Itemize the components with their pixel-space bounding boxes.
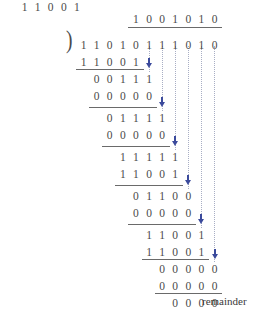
- partial-1-digit: 0: [103, 72, 116, 86]
- rule-4: [115, 185, 183, 186]
- partial-5-digit: 1: [143, 228, 156, 242]
- subtrahend-1-digit: 1: [90, 55, 103, 69]
- subtrahend-5-digit: 0: [169, 206, 182, 220]
- remainder-label: remainder: [202, 295, 247, 308]
- rule-5: [128, 224, 196, 225]
- dividend-digit: 1: [169, 38, 182, 52]
- bringdown-arrow-6: [212, 254, 218, 259]
- bringdown-arrow-4: [185, 180, 191, 185]
- subtrahend-3-digit: 0: [103, 128, 116, 142]
- quotient-digit: 0: [156, 12, 169, 26]
- remainder-digit: 0: [182, 296, 195, 310]
- subtrahend-7-digit: 0: [156, 279, 169, 293]
- guide-col-7: [175, 46, 176, 150]
- subtrahend-5-digit: 0: [129, 206, 142, 220]
- dividend-digit: 1: [143, 38, 156, 52]
- subtrahend-4-digit: 1: [129, 167, 142, 181]
- subtrahend-1-digit: 0: [116, 55, 129, 69]
- quotient-digit: 0: [208, 12, 221, 26]
- quotient-digit: 1: [169, 12, 182, 26]
- guide-col-10: [214, 46, 215, 262]
- subtrahend-4-digit: 0: [143, 167, 156, 181]
- partial-5-digit: 0: [182, 228, 195, 242]
- partial-4-digit: 0: [182, 189, 195, 203]
- partial-5-digit: 1: [156, 228, 169, 242]
- dividend-digit: 0: [182, 38, 195, 52]
- quotient-digit: 0: [143, 12, 156, 26]
- partial-6-digit: 0: [169, 262, 182, 276]
- bringdown-arrow-2: [159, 102, 165, 107]
- partial-2-digit: 1: [143, 111, 156, 125]
- dividend-digit: 0: [129, 38, 142, 52]
- partial-1-digit: 1: [129, 72, 142, 86]
- partial-1-digit: 1: [143, 72, 156, 86]
- rule-1: [76, 69, 144, 70]
- partial-2-digit: 1: [129, 111, 142, 125]
- dividend-digit: 1: [195, 38, 208, 52]
- partial-2-digit: 0: [103, 111, 116, 125]
- rule-6: [142, 259, 210, 260]
- dividend-digit: 1: [156, 38, 169, 52]
- rule-3: [102, 146, 170, 147]
- dividend-digit: 0: [103, 38, 116, 52]
- subtrahend-7-digit: 0: [195, 279, 208, 293]
- subtrahend-6-digit: 0: [182, 245, 195, 259]
- partial-3-digit: 1: [143, 150, 156, 164]
- subtrahend-5-digit: 0: [156, 206, 169, 220]
- partial-2-digit: 1: [156, 111, 169, 125]
- partial-5-digit: 0: [169, 228, 182, 242]
- subtrahend-1-digit: 1: [129, 55, 142, 69]
- divisor-digit: 1: [31, 0, 44, 14]
- subtrahend-7-digit: 0: [169, 279, 182, 293]
- partial-4-digit: 1: [156, 189, 169, 203]
- remainder-digit: 0: [169, 296, 182, 310]
- subtrahend-2-digit: 0: [116, 89, 129, 103]
- subtrahend-6-digit: 1: [195, 245, 208, 259]
- subtrahend-3-digit: 0: [129, 128, 142, 142]
- subtrahend-6-digit: 1: [156, 245, 169, 259]
- partial-5-digit: 1: [195, 228, 208, 242]
- bringdown-arrow-1: [146, 63, 152, 68]
- quotient-digit: 1: [129, 12, 142, 26]
- subtrahend-4-digit: 1: [116, 167, 129, 181]
- subtrahend-2-digit: 0: [90, 89, 103, 103]
- subtrahend-5-digit: 0: [182, 206, 195, 220]
- partial-6-digit: 0: [208, 262, 221, 276]
- bringdown-arrow-5: [198, 219, 204, 224]
- guide-col-9: [201, 46, 202, 228]
- partial-3-digit: 1: [156, 150, 169, 164]
- subtrahend-4-digit: 0: [156, 167, 169, 181]
- subtrahend-6-digit: 1: [143, 245, 156, 259]
- partial-6-digit: 0: [156, 262, 169, 276]
- vinculum: [128, 27, 222, 28]
- subtrahend-4-digit: 1: [169, 167, 182, 181]
- partial-1-digit: 0: [90, 72, 103, 86]
- bringdown-arrow-3: [172, 141, 178, 146]
- subtrahend-6-digit: 0: [169, 245, 182, 259]
- quotient-digit: 0: [182, 12, 195, 26]
- partial-4-digit: 1: [143, 189, 156, 203]
- partial-3-digit: 1: [116, 150, 129, 164]
- subtrahend-3-digit: 0: [116, 128, 129, 142]
- divisor-digit: 1: [18, 0, 31, 14]
- dividend-digit: 1: [116, 38, 129, 52]
- subtrahend-7-digit: 0: [208, 279, 221, 293]
- divisor-digit: 1: [70, 0, 83, 14]
- quotient-digit: 1: [195, 12, 208, 26]
- rule-7: [155, 293, 223, 294]
- rule-2: [89, 107, 157, 108]
- subtrahend-2-digit: 0: [103, 89, 116, 103]
- divisor-digit: 0: [57, 0, 70, 14]
- partial-1-digit: 1: [116, 72, 129, 86]
- partial-3-digit: 1: [129, 150, 142, 164]
- divisor-digit: 0: [44, 0, 57, 14]
- subtrahend-1-digit: 0: [103, 55, 116, 69]
- dividend-digit: 1: [90, 38, 103, 52]
- subtrahend-2-digit: 0: [129, 89, 142, 103]
- partial-6-digit: 0: [195, 262, 208, 276]
- guide-col-8: [188, 46, 189, 189]
- subtrahend-7-digit: 0: [182, 279, 195, 293]
- partial-4-digit: 0: [129, 189, 142, 203]
- division-bracket-icon: ): [66, 27, 73, 53]
- dividend-digit: 1: [77, 38, 90, 52]
